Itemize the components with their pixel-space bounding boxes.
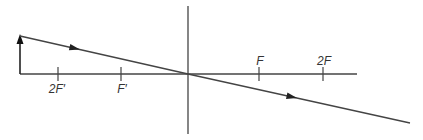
label-F-prime: F′ bbox=[117, 82, 127, 96]
label-2F: 2F bbox=[316, 54, 332, 68]
label-F: F bbox=[256, 54, 264, 68]
object-arrow-head-icon bbox=[17, 34, 24, 44]
label-2F-prime: 2F′ bbox=[48, 82, 66, 96]
light-ray bbox=[20, 36, 410, 123]
object-arrow bbox=[17, 34, 24, 74]
ray-direction-arrow-icon bbox=[286, 93, 297, 99]
lens-ray-diagram: 2F′ F′ F 2F bbox=[0, 0, 423, 140]
ray-direction-arrow-icon bbox=[69, 44, 80, 50]
